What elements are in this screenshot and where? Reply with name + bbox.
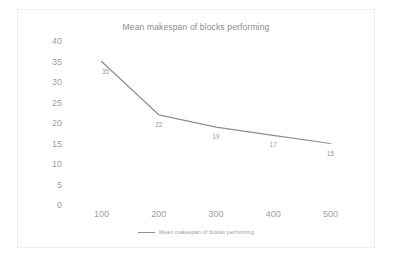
x-axis-tick-label: 100 [94, 209, 109, 219]
y-axis-tick-label: 40 [52, 36, 62, 46]
legend-item-label: Mean makespan of blocks performing [159, 229, 254, 235]
data-point-label: 22 [155, 121, 162, 128]
series-line-mean-makespan [73, 41, 359, 205]
y-axis-tick-label: 25 [52, 98, 62, 108]
y-axis-tick-label: 5 [57, 180, 62, 190]
data-point-label: 35 [102, 68, 109, 75]
chart-legend: Mean makespan of blocks performing [18, 229, 374, 235]
chart-container: Mean makespan of blocks performing 40353… [17, 9, 375, 248]
x-axis-tick-label: 400 [266, 209, 281, 219]
y-axis-tick-label: 30 [52, 77, 62, 87]
plot-area: 3522191715 [73, 41, 359, 205]
y-axis-tick-label: 20 [52, 118, 62, 128]
chart-title: Mean makespan of blocks performing [18, 22, 374, 32]
data-point-label: 15 [327, 150, 334, 157]
x-axis-tick-label: 200 [151, 209, 166, 219]
y-axis-tick-label: 15 [52, 139, 62, 149]
legend-line-icon [138, 232, 155, 233]
data-point-label: 17 [270, 141, 277, 148]
x-axis-tick-label: 300 [208, 209, 223, 219]
y-axis-tick-label: 10 [52, 159, 62, 169]
x-axis-tick-label: 500 [323, 209, 338, 219]
x-axis: 100200300400500 [73, 209, 359, 225]
y-axis-tick-label: 35 [52, 57, 62, 67]
data-point-label: 19 [212, 133, 219, 140]
y-axis-tick-label: 0 [57, 200, 62, 210]
y-axis: 4035302520151050 [18, 41, 68, 205]
